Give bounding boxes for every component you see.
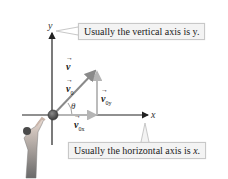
x-axis-label: x [151,110,155,120]
ball [48,110,58,120]
projectile-axes-diagram: y x v v0 v0y v0x θ Usually the vertical … [0,0,228,179]
v0-label: v0 [66,84,73,96]
v-label: v [66,62,70,72]
y-axis-label: y [48,21,52,31]
callout-top-pointer [56,27,78,35]
v0x-label: v0x [74,120,84,132]
person-figure [23,118,45,178]
vertical-axis-callout: Usually the vertical axis is y. [78,23,205,40]
theta-label: θ [71,102,75,111]
horizontal-axis-callout: Usually the horizontal axis is x. [68,142,206,159]
callout-bottom-pointer [141,123,149,142]
v0y-label: v0y [101,94,111,106]
